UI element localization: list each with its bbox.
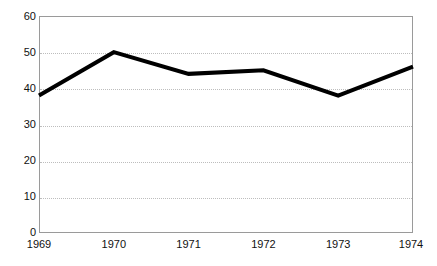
y-tick-label-0: 0: [2, 227, 36, 238]
series-line: [39, 52, 413, 95]
y-tick-label-10: 10: [2, 191, 36, 202]
x-tick-label-1973: 1973: [326, 238, 350, 250]
x-tick-label-1971: 1971: [176, 238, 200, 250]
line-chart: 60 50 40 30 20 10 0 1969 1970 1971 1972 …: [0, 0, 437, 266]
y-tick-label-60: 60: [2, 11, 36, 22]
y-tick-label-30: 30: [2, 119, 36, 130]
x-tick-label-1974: 1974: [399, 238, 423, 250]
y-tick-label-50: 50: [2, 47, 36, 58]
y-tick-label-40: 40: [2, 83, 36, 94]
x-tick-label-1972: 1972: [251, 238, 275, 250]
x-tick-label-1970: 1970: [102, 238, 126, 250]
x-axis-labels: 1969 1970 1971 1972 1973 1974: [0, 238, 437, 256]
series-line-layer: [39, 16, 413, 233]
y-axis-labels: 60 50 40 30 20 10 0: [0, 0, 36, 266]
y-tick-label-20: 20: [2, 155, 36, 166]
x-tick-label-1969: 1969: [27, 238, 51, 250]
